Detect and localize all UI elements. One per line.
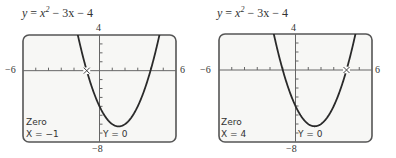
y-readout: Y = 0 [103,129,128,139]
graph-panel-right: y = x2 − 3x − 4 4 −8 −6 6 Zero X = 4 Y =… [198,0,396,158]
x-max-label: 6 [375,64,380,75]
y-readout: Y = 0 [298,129,323,139]
mode-label: Zero [26,117,47,127]
y-min-label: −8 [286,143,297,154]
y-max-label: 4 [96,22,101,33]
x-min-label: −6 [200,64,211,75]
x-readout: X = 4 [221,129,246,139]
graph-panel-left: y = x2 − 3x − 4 4 −8 −6 6 Zero X = −1 Y … [0,0,198,158]
x-min-label: −6 [5,64,16,75]
y-min-label: −8 [92,143,103,154]
y-max-label: 4 [291,22,296,33]
mode-label: Zero [221,117,242,127]
x-max-label: 6 [180,64,185,75]
x-readout: X = −1 [26,129,59,139]
